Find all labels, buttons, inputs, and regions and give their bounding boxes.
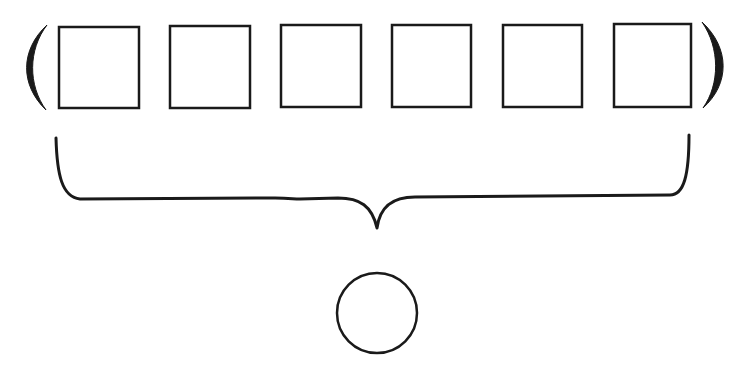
left-parenthesis: [27, 25, 47, 110]
box-4: [392, 25, 471, 107]
box-1: [59, 27, 139, 108]
box-6: [614, 24, 691, 107]
box-5: [503, 25, 582, 107]
diagram-canvas: [0, 0, 733, 371]
result-circle: [337, 273, 417, 353]
box-2: [170, 26, 250, 108]
right-parenthesis: [702, 22, 723, 108]
curly-brace: [56, 135, 689, 228]
box-3: [281, 25, 361, 107]
box-group: [59, 24, 691, 108]
